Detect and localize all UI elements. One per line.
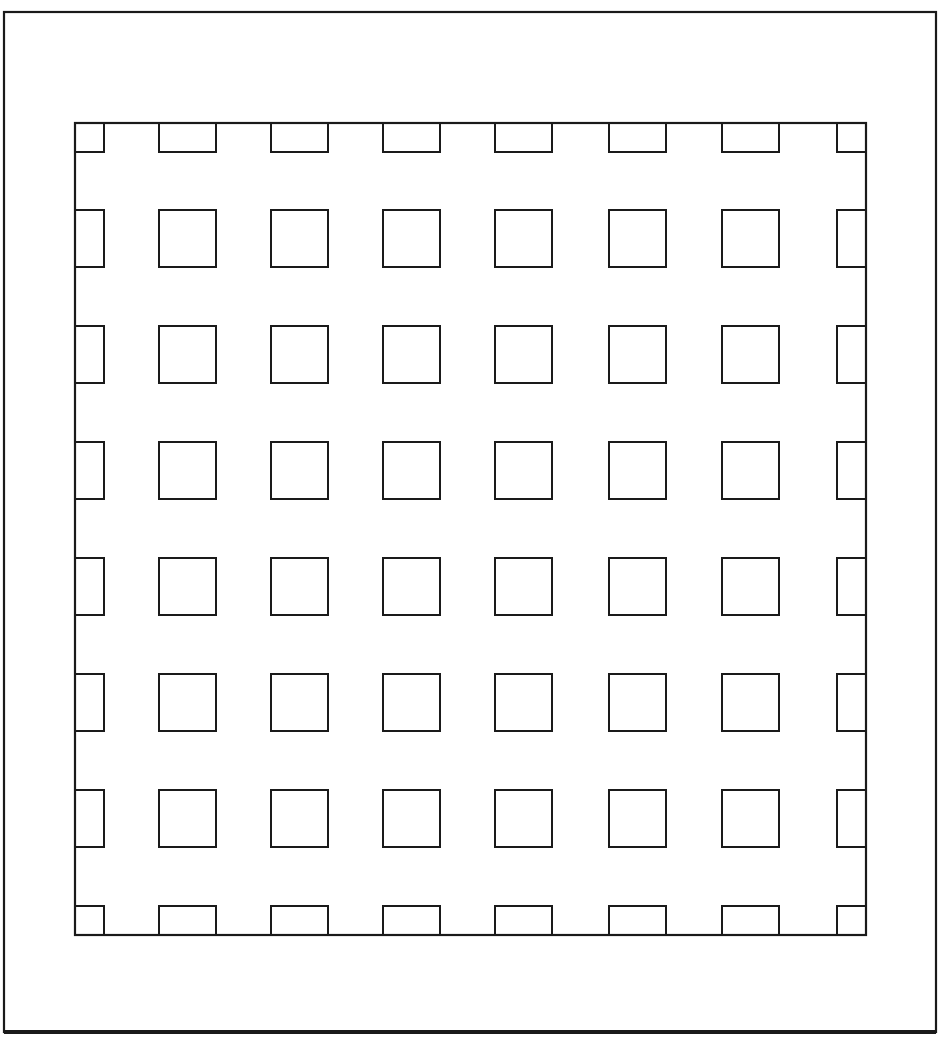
interior-cell	[495, 558, 552, 615]
edge-cell	[75, 210, 104, 267]
corner-cell	[75, 123, 104, 152]
interior-cell	[722, 442, 779, 499]
interior-cell	[159, 326, 216, 383]
interior-cell	[271, 558, 328, 615]
edge-cell	[495, 123, 552, 152]
inner-frame	[75, 123, 866, 935]
edge-cell	[75, 558, 104, 615]
interior-cell	[271, 790, 328, 847]
edge-cell	[159, 906, 216, 935]
interior-cell	[609, 558, 666, 615]
interior-cell	[495, 674, 552, 731]
edge-cell	[837, 790, 866, 847]
interior-cell	[609, 674, 666, 731]
interior-cell	[609, 326, 666, 383]
corner-cell	[837, 123, 866, 152]
interior-cell	[495, 790, 552, 847]
interior-cell	[495, 442, 552, 499]
edge-cell	[75, 790, 104, 847]
edge-cell	[75, 674, 104, 731]
interior-cell	[159, 674, 216, 731]
edge-cell	[609, 123, 666, 152]
interior-cell	[383, 674, 440, 731]
interior-cell	[383, 442, 440, 499]
interior-cell	[271, 442, 328, 499]
interior-cell	[609, 210, 666, 267]
interior-cell	[495, 326, 552, 383]
outer-frame	[4, 12, 936, 1032]
interior-cell	[383, 790, 440, 847]
interior-cell	[271, 326, 328, 383]
edge-cell	[609, 906, 666, 935]
edge-cell	[495, 906, 552, 935]
interior-cell	[722, 558, 779, 615]
interior-cell	[495, 210, 552, 267]
interior-cell	[159, 210, 216, 267]
inner-frame-border	[75, 123, 866, 935]
interior-cell	[271, 674, 328, 731]
edge-cell	[837, 326, 866, 383]
edge-cell	[837, 210, 866, 267]
interior-cell	[271, 210, 328, 267]
edge-cell	[159, 123, 216, 152]
edge-cell	[837, 674, 866, 731]
interior-cell	[383, 558, 440, 615]
edge-cell	[271, 123, 328, 152]
interior-cell	[609, 790, 666, 847]
edge-cell	[75, 442, 104, 499]
grid-cells	[75, 123, 866, 935]
interior-cell	[159, 442, 216, 499]
edge-cell	[75, 326, 104, 383]
interior-cell	[609, 442, 666, 499]
grid-diagram	[0, 0, 939, 1042]
edge-cell	[722, 123, 779, 152]
edge-cell	[722, 906, 779, 935]
interior-cell	[722, 674, 779, 731]
corner-cell	[837, 906, 866, 935]
outer-frame-border	[4, 12, 936, 1032]
edge-cell	[383, 906, 440, 935]
edge-cell	[383, 123, 440, 152]
interior-cell	[383, 210, 440, 267]
interior-cell	[722, 326, 779, 383]
edge-cell	[837, 442, 866, 499]
interior-cell	[159, 790, 216, 847]
corner-cell	[75, 906, 104, 935]
edge-cell	[837, 558, 866, 615]
interior-cell	[383, 326, 440, 383]
interior-cell	[159, 558, 216, 615]
edge-cell	[271, 906, 328, 935]
interior-cell	[722, 210, 779, 267]
interior-cell	[722, 790, 779, 847]
